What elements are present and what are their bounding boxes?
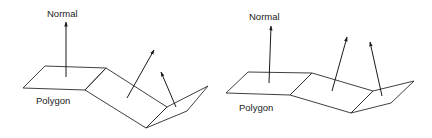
polygon-label: Polygon [239, 102, 273, 113]
normal-arrow-icon [127, 50, 154, 98]
normal-arrow-icon [269, 26, 271, 83]
tilted-polygon [351, 81, 414, 113]
flat-polygon [23, 66, 106, 90]
polygon-normals-diagram: Normal Polygon Normal Polygon [0, 0, 432, 138]
sloped-polygon [290, 73, 373, 113]
normal-label: Normal [47, 8, 78, 19]
right-figure: Normal Polygon [226, 11, 414, 113]
normal-arrow-icon [370, 42, 382, 96]
folded-polygon [146, 86, 208, 128]
left-figure: Normal Polygon [23, 8, 208, 128]
normal-label: Normal [249, 11, 280, 22]
polygon-label: Polygon [36, 95, 70, 106]
normal-arrow-icon [161, 72, 176, 107]
